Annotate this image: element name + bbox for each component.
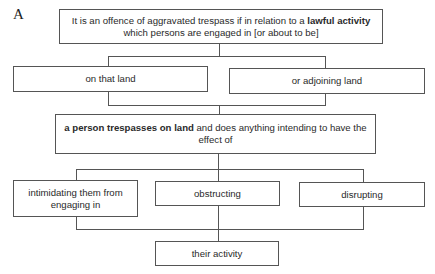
connector-line: [108, 56, 326, 57]
top-box-text: It is an offence of aggravated trespass …: [64, 15, 378, 39]
disrupting-box: disrupting: [299, 182, 425, 207]
connector-line: [325, 94, 326, 105]
figure-label: A: [13, 6, 24, 23]
connector-line: [108, 92, 109, 105]
connector-line: [76, 217, 77, 229]
connector-line: [363, 207, 364, 229]
connector-line: [218, 206, 219, 241]
connector-line: [76, 229, 364, 230]
connector-line: [108, 105, 326, 106]
lawful-activity-emphasis: lawful activity: [307, 15, 370, 26]
middle-box-text: a person trespasses on land and does any…: [60, 122, 371, 146]
intimidating-box: intimidating them from engaging in: [13, 180, 138, 217]
connector-line: [325, 56, 326, 68]
connector-line: [76, 169, 364, 170]
connector-line: [76, 169, 77, 180]
on-that-land-box: on that land: [13, 66, 208, 92]
top-box-offence-definition: It is an offence of aggravated trespass …: [59, 9, 383, 44]
their-activity-box: their activity: [155, 241, 279, 266]
connector-line: [363, 169, 364, 182]
connector-line: [219, 44, 220, 56]
obstructing-box: obstructing: [155, 181, 280, 206]
connector-line: [218, 154, 219, 181]
person-trespasses-box: a person trespasses on land and does any…: [55, 114, 376, 154]
person-trespasses-emphasis: a person trespasses on land: [64, 122, 194, 133]
connector-line: [219, 105, 220, 114]
adjoining-land-box: or adjoining land: [229, 68, 425, 94]
connector-line: [108, 56, 109, 66]
